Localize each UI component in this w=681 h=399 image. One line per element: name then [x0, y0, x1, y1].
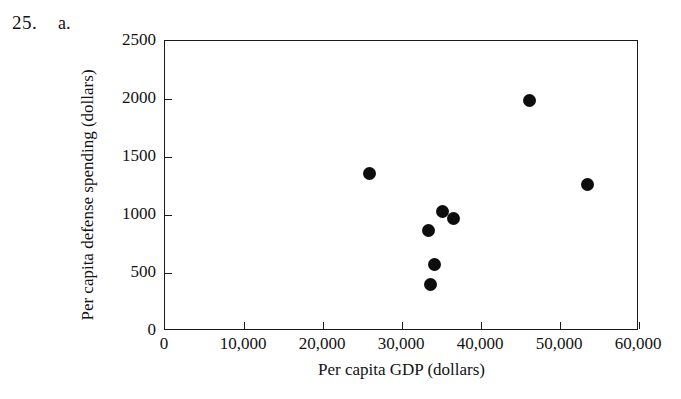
- x-axis-title: Per capita GDP (dollars): [164, 360, 639, 380]
- y-axis-ticklabel: 0: [148, 320, 157, 340]
- scatter-plot-figure: 25. a. Per capita defense spending (doll…: [0, 0, 681, 399]
- x-axis-ticklabel: 50,000: [536, 334, 583, 354]
- data-point: [523, 94, 536, 107]
- plot-area: [164, 40, 638, 330]
- data-point: [422, 224, 435, 237]
- y-axis-tick: [165, 99, 172, 100]
- y-axis-ticklabel: 1000: [122, 204, 156, 224]
- data-point: [428, 258, 441, 271]
- x-axis-ticklabel: 0: [160, 334, 169, 354]
- x-axis-ticklabel: 60,000: [615, 334, 662, 354]
- y-axis-tick: [165, 157, 172, 158]
- x-axis-ticklabel: 30,000: [378, 334, 425, 354]
- x-axis-tick: [402, 322, 403, 329]
- problem-number: 25.: [12, 12, 37, 34]
- data-point: [363, 167, 376, 180]
- data-point: [424, 278, 437, 291]
- x-axis-tick: [323, 322, 324, 329]
- x-axis-ticklabel: 20,000: [299, 334, 346, 354]
- y-axis-ticklabels: 05001000150020002500: [96, 0, 156, 399]
- y-axis-tick: [165, 215, 172, 216]
- x-axis-ticklabel: 40,000: [457, 334, 504, 354]
- y-axis-ticklabel: 2500: [122, 30, 156, 50]
- data-point: [581, 178, 594, 191]
- x-axis-tick: [639, 322, 640, 329]
- y-axis-title: Per capita defense spending (dollars): [78, 45, 98, 345]
- x-axis-tick: [481, 322, 482, 329]
- y-axis-ticklabel: 500: [131, 262, 157, 282]
- x-axis-tick: [560, 322, 561, 329]
- x-axis-tick: [244, 322, 245, 329]
- data-point: [447, 212, 460, 225]
- y-axis-ticklabel: 2000: [122, 88, 156, 108]
- problem-part-letter: a.: [58, 13, 71, 34]
- y-axis-tick: [165, 273, 172, 274]
- y-axis-ticklabel: 1500: [122, 146, 156, 166]
- x-axis-ticklabel: 10,000: [220, 334, 267, 354]
